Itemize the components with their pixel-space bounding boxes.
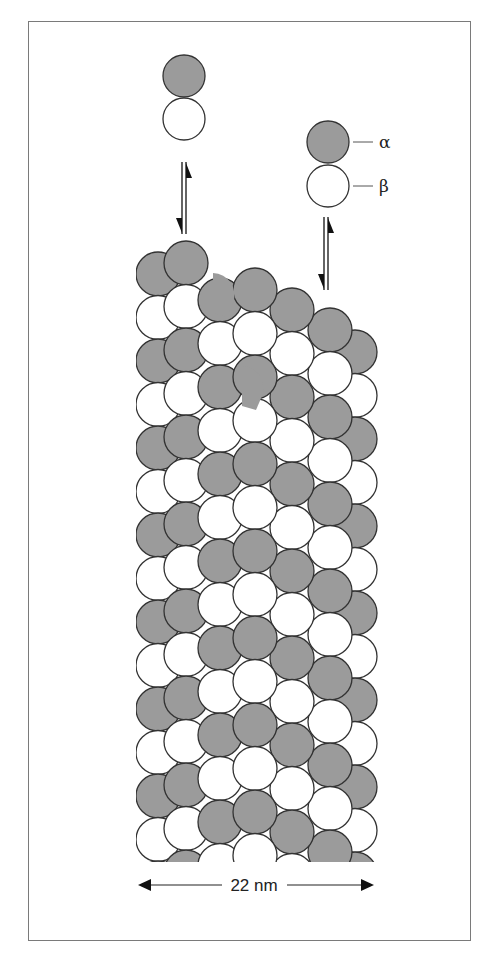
beta-tubulin: [308, 352, 352, 396]
equilibrium-arrow-left-icon: [176, 162, 192, 234]
alpha-tubulin: [233, 268, 277, 312]
scale-bar: 22 nm: [138, 876, 374, 895]
beta-tubulin: [308, 700, 352, 744]
alpha-tubulin: [233, 529, 277, 573]
microtubule-lattice: [136, 241, 377, 921]
alpha-tubulin: [233, 616, 277, 660]
beta-tubulin: [233, 573, 277, 617]
alpha-tubulin: [164, 241, 208, 285]
beta-label: β: [379, 176, 389, 196]
microtubule-diagram: α β 22 nm: [0, 0, 492, 962]
beta-tubulin: [308, 787, 352, 831]
alpha-tubulin: [233, 790, 277, 834]
alpha-tubulin: [308, 656, 352, 700]
alpha-tubulin: [308, 569, 352, 613]
tubulin-dimer-right: [307, 121, 349, 207]
beta-tubulin: [308, 526, 352, 570]
alpha-tubulin: [307, 121, 349, 163]
alpha-tubulin: [308, 308, 352, 352]
alpha-tubulin: [233, 442, 277, 486]
scale-bar-label: 22 nm: [230, 876, 277, 895]
alpha-tubulin: [233, 703, 277, 747]
beta-tubulin: [308, 439, 352, 483]
beta-tubulin: [233, 747, 277, 791]
arrow-right-icon: [361, 879, 374, 891]
beta-tubulin: [233, 486, 277, 530]
beta-tubulin: [308, 613, 352, 657]
alpha-tubulin: [163, 55, 205, 97]
alpha-tubulin: [308, 395, 352, 439]
beta-tubulin: [163, 98, 205, 140]
arrow-left-icon: [138, 879, 151, 891]
equilibrium-arrow-right-icon: [318, 217, 334, 290]
beta-tubulin: [308, 874, 352, 918]
beta-tubulin: [233, 834, 277, 878]
alpha-tubulin: [308, 743, 352, 787]
alpha-tubulin: [308, 830, 352, 874]
beta-tubulin: [307, 165, 349, 207]
alpha-label: α: [379, 132, 391, 152]
tubulin-dimer-left: [163, 55, 205, 140]
beta-tubulin: [233, 660, 277, 704]
beta-tubulin: [233, 312, 277, 356]
alpha-tubulin: [308, 482, 352, 526]
